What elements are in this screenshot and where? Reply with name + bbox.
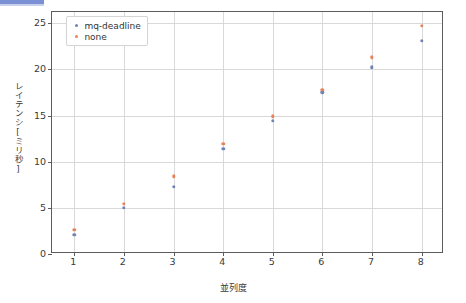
x-axis-label: 並列度 bbox=[0, 281, 466, 294]
y-gridline bbox=[52, 116, 442, 117]
window-bar-fragment-shadow bbox=[0, 4, 44, 6]
y-tick-label: 10 bbox=[22, 155, 46, 166]
legend-item-label: none bbox=[84, 32, 106, 42]
x-tick-label: 1 bbox=[70, 256, 76, 267]
x-tick-label: 2 bbox=[120, 256, 126, 267]
data-point bbox=[73, 233, 76, 236]
data-point bbox=[221, 147, 224, 150]
dot-marker-blue bbox=[75, 24, 78, 27]
legend-item-mq-deadline[interactable]: mq-deadline bbox=[71, 20, 141, 31]
x-gridline bbox=[322, 12, 323, 252]
data-point bbox=[73, 228, 76, 231]
data-point bbox=[172, 175, 175, 178]
x-gridline bbox=[223, 12, 224, 252]
y-tick-mark bbox=[48, 116, 52, 117]
x-gridline bbox=[273, 12, 274, 252]
data-point bbox=[172, 185, 175, 188]
x-gridline bbox=[124, 12, 125, 252]
data-point bbox=[420, 24, 423, 27]
y-tick-mark bbox=[48, 254, 52, 255]
y-tick-label: 15 bbox=[22, 109, 46, 120]
y-tick-mark bbox=[48, 69, 52, 70]
y-tick-label: 20 bbox=[22, 63, 46, 74]
x-tick-label: 3 bbox=[170, 256, 176, 267]
y-tick-label: 25 bbox=[22, 17, 46, 28]
x-tick-label: 6 bbox=[318, 256, 324, 267]
y-tick-mark bbox=[48, 208, 52, 209]
y-tick-mark bbox=[48, 23, 52, 24]
legend[interactable]: mq-deadlinenone bbox=[66, 16, 148, 46]
data-point bbox=[321, 91, 324, 94]
x-gridline bbox=[174, 12, 175, 252]
dot-marker-orange bbox=[75, 35, 78, 38]
y-tick-label: 5 bbox=[22, 201, 46, 212]
data-point bbox=[221, 142, 224, 145]
data-point bbox=[271, 119, 274, 122]
data-point bbox=[271, 115, 274, 118]
y-gridline bbox=[52, 208, 442, 209]
legend-item-label: mq-deadline bbox=[84, 21, 140, 31]
data-point bbox=[122, 206, 125, 209]
y-gridline bbox=[52, 162, 442, 163]
x-gridline bbox=[372, 12, 373, 252]
y-gridline bbox=[52, 69, 442, 70]
x-tick-label: 4 bbox=[219, 256, 225, 267]
chart-screenshot: レイテンシ[ミリ秒] 並列度 mq-deadlinenone 051015202… bbox=[0, 0, 466, 303]
y-axis-label: レイテンシ[ミリ秒] bbox=[8, 82, 22, 174]
y-tick-label: 0 bbox=[22, 248, 46, 259]
x-gridline bbox=[74, 12, 75, 252]
x-gridline bbox=[422, 12, 423, 252]
legend-item-none[interactable]: none bbox=[71, 31, 141, 42]
data-point bbox=[420, 39, 423, 42]
data-point bbox=[122, 202, 125, 205]
data-point bbox=[370, 56, 373, 59]
x-tick-label: 5 bbox=[269, 256, 275, 267]
plot-area bbox=[51, 11, 443, 253]
x-tick-label: 8 bbox=[418, 256, 424, 267]
x-tick-label: 7 bbox=[368, 256, 374, 267]
y-tick-mark bbox=[48, 162, 52, 163]
